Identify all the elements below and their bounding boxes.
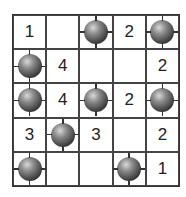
cell-number: 1	[25, 22, 34, 42]
cell-number: 3	[25, 125, 34, 145]
mine-icon	[84, 20, 108, 44]
cell-number: 1	[158, 159, 167, 179]
number-cell[interactable]: 4	[46, 49, 79, 83]
number-cell[interactable]: 3	[79, 118, 112, 152]
empty-cell[interactable]	[79, 152, 112, 186]
mine-cell[interactable]	[46, 118, 79, 152]
mine-cell[interactable]	[79, 15, 112, 49]
mine-icon	[51, 123, 75, 147]
number-cell[interactable]: 3	[13, 118, 46, 152]
cell-number: 2	[124, 22, 133, 42]
number-cell[interactable]: 1	[146, 152, 179, 186]
cell-number: 3	[91, 125, 100, 145]
cell-number: 2	[124, 90, 133, 110]
mine-icon	[150, 20, 174, 44]
cell-number: 4	[58, 56, 67, 76]
number-cell[interactable]: 4	[46, 83, 79, 117]
number-cell[interactable]: 2	[113, 83, 146, 117]
number-cell[interactable]: 1	[13, 15, 46, 49]
mine-icon	[150, 88, 174, 112]
number-cell[interactable]: 2	[113, 15, 146, 49]
empty-cell[interactable]	[46, 15, 79, 49]
mine-cell[interactable]	[13, 152, 46, 186]
mine-cell[interactable]	[113, 152, 146, 186]
mine-cell[interactable]	[79, 83, 112, 117]
cell-number: 4	[58, 90, 67, 110]
empty-cell[interactable]	[113, 49, 146, 83]
mine-cell[interactable]	[146, 15, 179, 49]
number-cell[interactable]: 2	[146, 49, 179, 83]
cell-number: 2	[158, 125, 167, 145]
mine-cell[interactable]	[146, 83, 179, 117]
minesweeper-grid: 1242423321	[12, 14, 180, 187]
mine-icon	[18, 157, 42, 181]
mine-icon	[117, 157, 141, 181]
mine-icon	[84, 88, 108, 112]
mine-icon	[18, 88, 42, 112]
number-cell[interactable]: 2	[146, 118, 179, 152]
mine-cell[interactable]	[13, 49, 46, 83]
empty-cell[interactable]	[79, 49, 112, 83]
mine-icon	[18, 54, 42, 78]
mine-cell[interactable]	[13, 83, 46, 117]
empty-cell[interactable]	[46, 152, 79, 186]
cell-number: 2	[158, 56, 167, 76]
empty-cell[interactable]	[113, 118, 146, 152]
